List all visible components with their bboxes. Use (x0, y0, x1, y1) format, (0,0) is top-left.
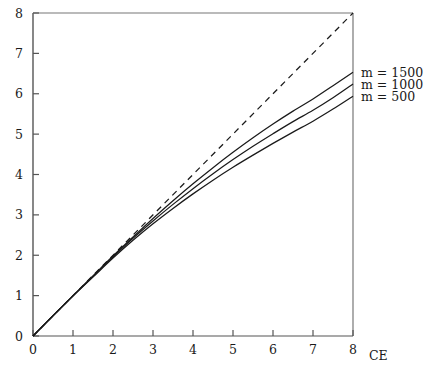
y-axis-tick-labels: 012345678 (15, 6, 23, 344)
legend-label-m500: m = 500 (361, 89, 415, 104)
chart-background (0, 0, 423, 369)
chart-legend: m = 1500m = 1000m = 500 (361, 65, 423, 104)
y-tick-label: 4 (15, 167, 23, 182)
x-tick-label: 6 (269, 342, 277, 357)
y-tick-label: 8 (15, 6, 23, 21)
y-tick-label: 3 (15, 207, 23, 222)
x-tick-label: 2 (109, 342, 117, 357)
line-chart: 012345678 012345678 CE m = 1500m = 1000m… (0, 0, 423, 369)
x-tick-label: 7 (309, 342, 317, 357)
x-tick-label: 0 (29, 342, 37, 357)
x-tick-label: 8 (349, 342, 357, 357)
chart-figure: 012345678 012345678 CE m = 1500m = 1000m… (0, 0, 423, 369)
y-tick-label: 0 (15, 329, 23, 344)
x-tick-label: 3 (149, 342, 157, 357)
y-tick-label: 5 (15, 127, 23, 142)
y-tick-label: 1 (15, 288, 23, 303)
x-axis-label: CE (369, 348, 388, 363)
x-tick-label: 4 (189, 342, 197, 357)
y-tick-label: 6 (15, 86, 23, 101)
y-tick-label: 2 (15, 248, 23, 263)
x-tick-label: 5 (229, 342, 237, 357)
y-tick-label: 7 (15, 46, 23, 61)
x-tick-label: 1 (69, 342, 77, 357)
